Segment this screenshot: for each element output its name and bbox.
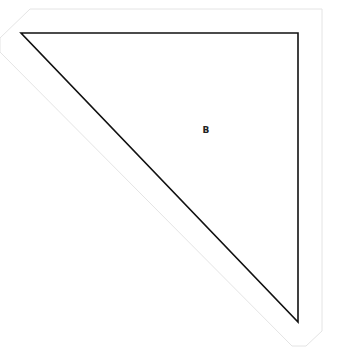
triangle-region-b[interactable] <box>21 33 298 322</box>
region-label: B <box>203 125 210 135</box>
diagram-canvas: B <box>0 0 337 356</box>
